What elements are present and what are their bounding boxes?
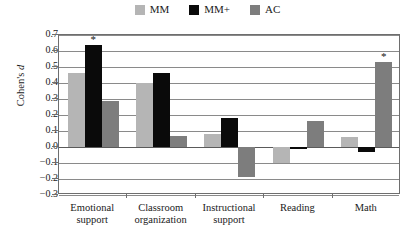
x-category-label-line: support — [58, 214, 126, 226]
bar — [153, 73, 170, 147]
bar-group — [264, 35, 332, 193]
bar — [204, 134, 221, 147]
x-category-label-line: Math — [332, 202, 400, 214]
x-category-label: Math — [332, 202, 400, 214]
bar — [136, 83, 153, 147]
bar-group: * — [333, 35, 401, 193]
x-category-label-line: Emotional — [58, 202, 126, 214]
x-category-label-line: Reading — [263, 202, 331, 214]
bar — [290, 147, 307, 149]
legend-swatch-mmplus — [189, 5, 199, 15]
legend-swatch-ac — [250, 5, 260, 15]
bar — [85, 45, 102, 147]
y-axis-ticks: 0.70.60.50.40.30.20.10.0−0.1−0.2−0.3 — [0, 34, 58, 194]
x-category-label-line: support — [195, 214, 263, 226]
bar — [238, 147, 255, 177]
bar-group: * — [59, 35, 127, 193]
bar — [307, 121, 324, 147]
x-axis-category-labels: EmotionalsupportClassroomorganizationIns… — [58, 202, 400, 242]
x-axis-ticks — [58, 194, 400, 199]
legend-swatch-mm — [135, 5, 145, 15]
bar — [170, 136, 187, 147]
bar — [273, 147, 290, 163]
legend-entry: MM+ — [189, 4, 230, 15]
chart-figure: MMMM+AC Cohen's d 0.70.60.50.40.30.20.10… — [0, 0, 415, 246]
x-category-label-line: Instructional — [195, 202, 263, 214]
bar-group — [127, 35, 195, 193]
legend-label: MM — [150, 4, 170, 15]
plot-area: ** — [58, 34, 400, 194]
x-category-label: Emotionalsupport — [58, 202, 126, 226]
bar — [341, 137, 358, 147]
x-category-label: Classroomorganization — [126, 202, 194, 226]
x-tick-mark — [332, 194, 333, 198]
legend-entry: AC — [250, 4, 280, 15]
x-category-label: Instructionalsupport — [195, 202, 263, 226]
legend-entry: MM — [135, 4, 170, 15]
bar — [375, 62, 392, 147]
x-tick-mark — [126, 194, 127, 198]
bar-group — [196, 35, 264, 193]
legend-label: AC — [265, 4, 280, 15]
significance-asterisk: * — [85, 35, 102, 43]
legend-label: MM+ — [204, 4, 230, 15]
bar — [221, 118, 238, 147]
bar — [358, 147, 375, 152]
x-tick-mark — [263, 194, 264, 198]
x-category-label: Reading — [263, 202, 331, 214]
x-category-label-line: Classroom — [126, 202, 194, 214]
x-category-label-line: organization — [126, 214, 194, 226]
bar — [68, 73, 85, 147]
chart-legend: MMMM+AC — [0, 4, 415, 15]
bar — [102, 101, 119, 147]
significance-asterisk: * — [375, 52, 392, 60]
x-tick-mark — [195, 194, 196, 198]
